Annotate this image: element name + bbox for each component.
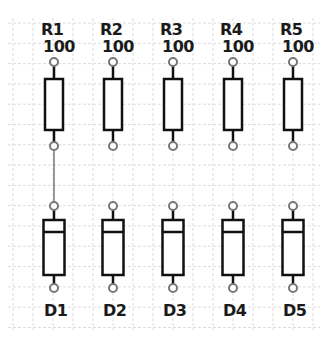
diode-d2[interactable]: D2 bbox=[103, 202, 127, 320]
pin-1[interactable] bbox=[109, 58, 117, 66]
pin-1[interactable] bbox=[169, 202, 177, 210]
resistor-value-label: 100 bbox=[162, 37, 194, 56]
resistor-body bbox=[224, 79, 242, 130]
pin-1[interactable] bbox=[289, 58, 297, 66]
pin-1[interactable] bbox=[289, 202, 297, 210]
pin-1[interactable] bbox=[229, 202, 237, 210]
resistor-r4[interactable]: R4100 bbox=[220, 20, 254, 150]
pin-2[interactable] bbox=[50, 284, 58, 292]
resistor-value-label: 100 bbox=[102, 37, 134, 56]
pin-1[interactable] bbox=[109, 202, 117, 210]
pin-2[interactable] bbox=[289, 284, 297, 292]
pin-2[interactable] bbox=[169, 284, 177, 292]
diode-d5[interactable]: D5 bbox=[283, 202, 307, 320]
diode-body bbox=[103, 220, 124, 275]
pin-2[interactable] bbox=[169, 142, 177, 150]
diodes: D1D2D3D4D5 bbox=[44, 202, 307, 320]
resistor-value-label: 100 bbox=[282, 37, 314, 56]
pin-2[interactable] bbox=[50, 142, 58, 150]
diode-d3[interactable]: D3 bbox=[163, 202, 187, 320]
schematic-canvas[interactable]: R1100R2100R3100R4100R5100 D1D2D3D4D5 bbox=[0, 0, 334, 345]
diode-ref-label: D1 bbox=[44, 301, 68, 320]
resistor-r5[interactable]: R5100 bbox=[280, 20, 314, 150]
diode-d4[interactable]: D4 bbox=[223, 202, 247, 320]
pin-1[interactable] bbox=[169, 58, 177, 66]
pin-2[interactable] bbox=[229, 142, 237, 150]
pin-2[interactable] bbox=[229, 284, 237, 292]
pin-2[interactable] bbox=[289, 142, 297, 150]
resistor-r3[interactable]: R3100 bbox=[160, 20, 194, 150]
pin-1[interactable] bbox=[50, 202, 58, 210]
pin-1[interactable] bbox=[50, 58, 58, 66]
diode-ref-label: D3 bbox=[163, 301, 186, 320]
diode-body bbox=[283, 220, 304, 275]
pin-2[interactable] bbox=[109, 142, 117, 150]
resistor-r2[interactable]: R2100 bbox=[100, 20, 134, 150]
resistor-body bbox=[104, 79, 122, 130]
resistor-r1[interactable]: R1100 bbox=[41, 20, 75, 150]
diode-ref-label: D2 bbox=[103, 301, 126, 320]
pin-2[interactable] bbox=[109, 284, 117, 292]
diode-ref-label: D4 bbox=[223, 301, 247, 320]
resistor-value-label: 100 bbox=[43, 37, 75, 56]
resistor-body bbox=[284, 79, 302, 130]
diode-body bbox=[163, 220, 184, 275]
diode-ref-label: D5 bbox=[283, 301, 307, 320]
resistor-body bbox=[45, 79, 63, 130]
resistor-body bbox=[164, 79, 182, 130]
diode-d1[interactable]: D1 bbox=[44, 202, 68, 320]
diode-body bbox=[44, 220, 65, 275]
resistor-value-label: 100 bbox=[222, 37, 254, 56]
pin-1[interactable] bbox=[229, 58, 237, 66]
diode-body bbox=[223, 220, 244, 275]
